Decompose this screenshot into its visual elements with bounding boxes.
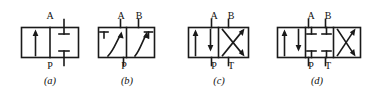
- caption-c: (c): [199, 75, 239, 86]
- caption-d: (d): [297, 75, 337, 86]
- valve-diagram-c: A B P T: [180, 0, 265, 94]
- caption-d-text: (d): [311, 75, 323, 86]
- valve-diagram-d: A B P T: [270, 0, 378, 94]
- caption-a-text: (a): [44, 75, 56, 86]
- caption-b: (b): [107, 75, 147, 86]
- caption-c-text: (c): [213, 75, 225, 86]
- valve-diagram-a: A P: [0, 0, 100, 94]
- caption-a: (a): [30, 75, 70, 86]
- valve-symbol-figure: A P: [0, 0, 378, 94]
- valve-diagram-b: A B P: [90, 0, 170, 94]
- caption-b-text: (b): [121, 75, 133, 86]
